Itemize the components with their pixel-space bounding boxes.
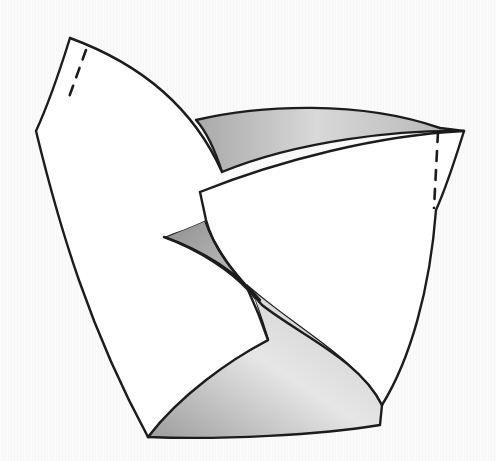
folded-cup-drawing xyxy=(0,0,496,461)
sketch-canvas xyxy=(0,0,496,461)
